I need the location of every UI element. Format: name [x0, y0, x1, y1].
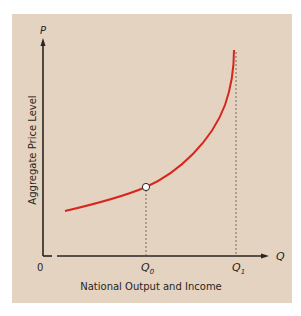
- y-axis-arrow-icon: [41, 38, 46, 46]
- q1-label: Q1: [232, 261, 245, 276]
- chart-svg: P Q 0 Q0 Q1 National Output and Income A…: [0, 0, 301, 316]
- q0-label: Q0: [141, 261, 155, 276]
- x-axis-arrow-icon: [261, 254, 269, 259]
- x-axis-label: National Output and Income: [80, 281, 222, 292]
- origin-label: 0: [37, 262, 43, 273]
- equilibrium-point: [142, 183, 149, 190]
- x-axis-symbol: Q: [276, 250, 285, 263]
- y-axis-symbol: P: [40, 25, 47, 36]
- y-axis-label: Aggregate Price Level: [27, 95, 38, 204]
